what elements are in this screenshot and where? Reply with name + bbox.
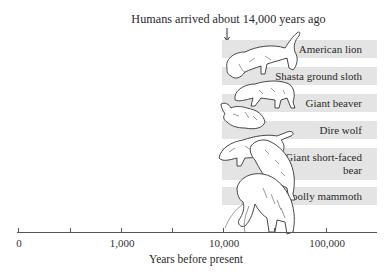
x-tick-0 [18, 228, 19, 233]
x-tick-10000 [223, 228, 224, 233]
x-tick-minor-2 [172, 228, 173, 233]
annotation-title: Humans arrived about 14,000 years ago [0, 12, 392, 27]
x-tick-label-10000: 10,000 [209, 237, 239, 249]
x-tick-label-0: 0 [16, 237, 22, 249]
label-dire-wolf: Dire wolf [320, 124, 362, 137]
x-tick-100000 [326, 228, 327, 233]
x-tick-1000 [121, 228, 122, 233]
giant-beaver-icon [221, 103, 265, 129]
animal-illustrations [215, 28, 325, 238]
shasta-ground-sloth-icon [235, 81, 295, 108]
american-lion-icon [227, 32, 300, 78]
x-tick-label-100000: 100,000 [309, 237, 345, 249]
x-axis-title: Years before present [0, 253, 392, 265]
x-tick-minor-1 [70, 228, 71, 233]
x-tick-minor-3 [274, 228, 275, 233]
label-giant-short-faced-bear-line2: bear [343, 164, 362, 177]
x-tick-label-1000: 1,000 [110, 237, 135, 249]
x-axis-line [17, 232, 377, 233]
